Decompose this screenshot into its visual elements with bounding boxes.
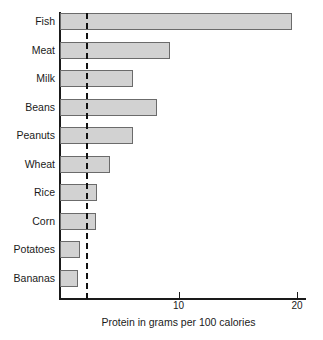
plot-area: [60, 13, 297, 298]
bar-beans: [60, 99, 157, 116]
category-label-meat: Meat: [0, 44, 55, 56]
category-label-bananas: Bananas: [0, 272, 55, 284]
category-label-rice: Rice: [0, 186, 55, 198]
bar-fish: [60, 13, 292, 30]
bar-bananas: [60, 270, 78, 287]
category-label-potatoes: Potatoes: [0, 243, 55, 255]
x-tick-label-20: 20: [284, 300, 310, 312]
x-tick-10: [179, 292, 180, 298]
x-tick-20: [297, 292, 298, 298]
x-tick-label-10: 10: [166, 300, 192, 312]
bar-row: [60, 70, 297, 87]
bar-row: [60, 99, 297, 116]
bar-row: [60, 270, 297, 287]
category-label-peanuts: Peanuts: [0, 129, 55, 141]
protein-bar-chart: FishMeatMilkBeansPeanutsWheatRiceCornPot…: [0, 0, 323, 340]
category-label-fish: Fish: [0, 15, 55, 27]
category-label-wheat: Wheat: [0, 158, 55, 170]
bar-row: [60, 241, 297, 258]
bar-row: [60, 213, 297, 230]
reference-line: [86, 13, 88, 299]
bar-row: [60, 184, 297, 201]
bar-row: [60, 127, 297, 144]
bar-row: [60, 42, 297, 59]
category-label-corn: Corn: [0, 215, 55, 227]
category-label-milk: Milk: [0, 72, 55, 84]
category-label-beans: Beans: [0, 101, 55, 113]
bar-milk: [60, 70, 133, 87]
bar-row: [60, 13, 297, 30]
bar-corn: [60, 213, 96, 230]
bar-potatoes: [60, 241, 80, 258]
bar-wheat: [60, 156, 110, 173]
bar-meat: [60, 42, 170, 59]
bar-rice: [60, 184, 97, 201]
x-axis-title: Protein in grams per 100 calories: [0, 316, 323, 329]
bar-row: [60, 156, 297, 173]
bar-peanuts: [60, 127, 133, 144]
